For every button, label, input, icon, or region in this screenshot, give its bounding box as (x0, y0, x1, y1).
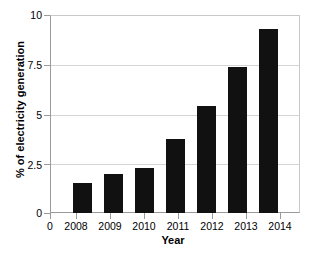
x-axis-tick-mark-2014 (280, 213, 281, 219)
x-axis-tick-mark-2010 (144, 213, 145, 219)
y-axis-tick-label-5: 5 (8, 110, 42, 121)
y-axis-tick-label-7_5: 7.5 (8, 60, 42, 71)
bar-2009[interactable] (104, 174, 123, 213)
y-axis-tick-label-0: 0 (8, 208, 42, 219)
x-axis-tick-label-2014: 2014 (260, 221, 300, 232)
x-axis-tick-mark-0 (50, 213, 51, 219)
bar-chart-figure: % of electricity generation 10 7.5 5 2.5… (0, 0, 313, 262)
x-axis-tick-mark-2011 (178, 213, 179, 219)
bar-2013[interactable] (228, 67, 247, 213)
bar-2012[interactable] (197, 106, 216, 213)
x-axis-tick-mark-2009 (110, 213, 111, 219)
x-axis-title: Year (45, 234, 301, 246)
x-axis-tick-mark-2008 (76, 213, 77, 219)
bar-2008[interactable] (73, 183, 92, 213)
x-axis-tick-mark-2013 (246, 213, 247, 219)
bar-2010[interactable] (135, 168, 154, 213)
x-axis-tick-mark-2012 (212, 213, 213, 219)
bar-2011[interactable] (166, 139, 185, 213)
bar-2014[interactable] (259, 29, 278, 213)
y-axis-tick-label-2_5: 2.5 (8, 160, 42, 171)
bars-layer (51, 16, 299, 213)
y-axis-tick-label-10: 10 (8, 10, 42, 21)
